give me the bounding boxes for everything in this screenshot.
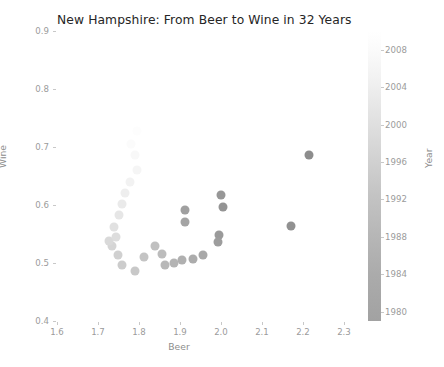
x-tick-mark bbox=[139, 322, 140, 325]
x-axis-label-text: Beer bbox=[168, 341, 189, 352]
scatter-plot-figure: New Hampshire: From Beer to Wine in 32 Y… bbox=[0, 0, 444, 367]
x-tick-mark bbox=[98, 322, 99, 325]
x-tick-mark bbox=[344, 322, 345, 325]
data-point bbox=[117, 200, 126, 209]
y-axis-label: Wine bbox=[0, 145, 8, 168]
x-tick-label: 2.3 bbox=[329, 327, 359, 337]
y-tick-label: 0.9 bbox=[23, 26, 49, 36]
y-tick-mark bbox=[53, 263, 56, 264]
data-point bbox=[286, 222, 295, 231]
data-point bbox=[160, 261, 169, 270]
x-tick-mark bbox=[303, 322, 304, 325]
data-point bbox=[109, 223, 118, 232]
data-point bbox=[113, 250, 122, 259]
y-tick-mark bbox=[53, 147, 56, 148]
x-tick-mark bbox=[221, 322, 222, 325]
data-point bbox=[130, 151, 139, 160]
colorbar-tick-mark bbox=[381, 199, 384, 200]
y-tick-label: 0.7 bbox=[23, 142, 49, 152]
data-point bbox=[214, 238, 223, 247]
colorbar-tick-label: 1984 bbox=[385, 269, 407, 279]
data-point bbox=[150, 241, 159, 250]
colorbar-tick-label: 1996 bbox=[385, 157, 407, 167]
x-tick-label: 1.8 bbox=[124, 327, 154, 337]
data-point bbox=[139, 116, 148, 125]
colorbar-tick-mark bbox=[381, 162, 384, 163]
data-point bbox=[169, 259, 178, 268]
colorbar-tick-mark bbox=[381, 274, 384, 275]
data-point bbox=[139, 253, 148, 262]
colorbar-tick-label: 2000 bbox=[385, 120, 407, 130]
x-tick-label: 1.7 bbox=[83, 327, 113, 337]
x-tick-label: 2.1 bbox=[247, 327, 277, 337]
data-point bbox=[112, 233, 121, 242]
colorbar-tick-mark bbox=[381, 237, 384, 238]
x-tick-label: 1.6 bbox=[42, 327, 72, 337]
colorbar-tick-label: 2004 bbox=[385, 82, 407, 92]
colorbar-label: Year bbox=[423, 149, 434, 168]
data-point bbox=[180, 217, 189, 226]
data-point bbox=[126, 140, 135, 149]
x-axis-label: Beer bbox=[0, 341, 444, 352]
colorbar-tick-mark bbox=[381, 87, 384, 88]
x-tick-label: 1.9 bbox=[165, 327, 195, 337]
data-point bbox=[305, 151, 314, 160]
data-point bbox=[126, 177, 135, 186]
x-tick-label: 2.0 bbox=[206, 327, 236, 337]
y-tick-mark bbox=[53, 321, 56, 322]
data-point bbox=[181, 205, 190, 214]
y-tick-label: 0.6 bbox=[23, 200, 49, 210]
data-point bbox=[178, 256, 187, 265]
data-point bbox=[157, 250, 166, 259]
x-tick-mark bbox=[180, 322, 181, 325]
colorbar-tick-label: 2008 bbox=[385, 45, 407, 55]
data-point bbox=[188, 254, 197, 263]
x-tick-mark bbox=[57, 322, 58, 325]
data-point bbox=[219, 203, 228, 212]
data-point bbox=[132, 165, 141, 174]
y-tick-mark bbox=[53, 89, 56, 90]
colorbar-tick-mark bbox=[381, 50, 384, 51]
data-point bbox=[115, 210, 124, 219]
colorbar-tick-label: 1988 bbox=[385, 232, 407, 242]
x-tick-label: 2.2 bbox=[288, 327, 318, 337]
y-tick-mark bbox=[53, 31, 56, 32]
data-point bbox=[198, 251, 207, 260]
plot-area[interactable] bbox=[57, 31, 344, 321]
colorbar-gradient bbox=[368, 31, 381, 321]
y-tick-label: 0.8 bbox=[23, 84, 49, 94]
y-tick-mark bbox=[53, 205, 56, 206]
data-point bbox=[130, 266, 139, 275]
colorbar-tick-mark bbox=[381, 125, 384, 126]
data-point bbox=[121, 189, 130, 198]
data-point bbox=[117, 260, 126, 269]
colorbar-tick-mark bbox=[381, 312, 384, 313]
chart-title: New Hampshire: From Beer to Wine in 32 Y… bbox=[57, 13, 357, 27]
data-point bbox=[217, 191, 226, 200]
colorbar-tick-label: 1980 bbox=[385, 307, 407, 317]
x-tick-mark bbox=[262, 322, 263, 325]
colorbar-tick-label: 1992 bbox=[385, 194, 407, 204]
y-tick-label: 0.5 bbox=[23, 258, 49, 268]
y-tick-label: 0.4 bbox=[23, 316, 49, 326]
colorbar[interactable] bbox=[368, 31, 381, 321]
data-point bbox=[133, 127, 142, 136]
